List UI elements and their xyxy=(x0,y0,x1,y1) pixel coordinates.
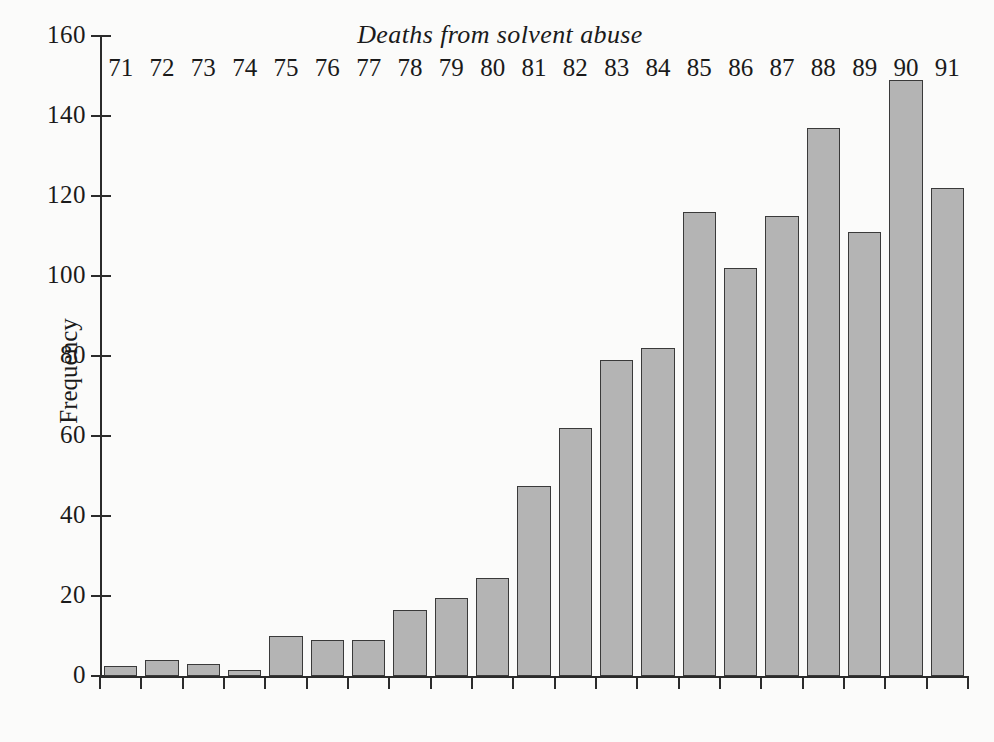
x-axis-tick-label: 77 xyxy=(356,54,381,82)
x-axis-tick xyxy=(306,676,308,689)
y-axis-tick-label: 80 xyxy=(60,341,86,369)
x-axis-line xyxy=(100,676,968,678)
x-axis-tick xyxy=(99,676,101,689)
y-axis-tick-label: 60 xyxy=(60,421,86,449)
bar xyxy=(393,610,426,676)
x-axis-tick-label: 87 xyxy=(770,54,795,82)
x-axis-tick-label: 86 xyxy=(728,54,753,82)
x-axis-tick xyxy=(388,676,390,689)
y-axis-tick-label: 40 xyxy=(60,501,86,529)
y-axis-tick-label: 120 xyxy=(47,181,86,209)
y-axis-tick-label: 160 xyxy=(47,21,86,49)
x-axis-tick-label: 82 xyxy=(563,54,588,82)
bar xyxy=(517,486,550,676)
x-axis-tick xyxy=(471,676,473,689)
x-axis-tick-label: 72 xyxy=(150,54,175,82)
bar xyxy=(476,578,509,676)
x-axis-tick xyxy=(884,676,886,689)
y-axis-tick-label: 0 xyxy=(73,661,86,689)
x-axis-tick-label: 91 xyxy=(935,54,960,82)
bar xyxy=(187,664,220,676)
y-axis-tick xyxy=(91,195,111,197)
y-axis-tick xyxy=(91,435,111,437)
y-axis-tick xyxy=(91,355,111,357)
y-axis-tick xyxy=(91,595,111,597)
x-axis-tick-label: 84 xyxy=(646,54,671,82)
x-axis-tick xyxy=(760,676,762,689)
x-axis-tick-label: 90 xyxy=(894,54,919,82)
x-axis-tick xyxy=(140,676,142,689)
x-axis-tick-label: 78 xyxy=(398,54,423,82)
x-axis-tick xyxy=(223,676,225,689)
bar xyxy=(228,670,261,676)
bar xyxy=(765,216,798,676)
bar xyxy=(807,128,840,676)
y-axis-tick xyxy=(91,35,111,37)
y-axis-tick-label: 140 xyxy=(47,101,86,129)
bar xyxy=(683,212,716,676)
bar xyxy=(352,640,385,676)
x-axis-tick-label: 81 xyxy=(522,54,547,82)
y-axis-title: Frequency xyxy=(55,318,83,424)
x-axis-tick xyxy=(967,676,969,689)
x-axis-tick-label: 74 xyxy=(232,54,257,82)
bar xyxy=(889,80,922,676)
x-axis-tick xyxy=(182,676,184,689)
x-axis-tick xyxy=(554,676,556,689)
x-axis-tick-label: 80 xyxy=(480,54,505,82)
bar xyxy=(641,348,674,676)
x-axis-tick xyxy=(512,676,514,689)
bar xyxy=(559,428,592,676)
plot-area: 0204060801001201401607172737475767778798… xyxy=(100,36,968,676)
bar xyxy=(931,188,964,676)
x-axis-tick-label: 76 xyxy=(315,54,340,82)
bar xyxy=(848,232,881,676)
x-axis-tick-label: 89 xyxy=(852,54,877,82)
y-axis-tick-label: 20 xyxy=(60,581,86,609)
x-axis-tick-label: 75 xyxy=(274,54,299,82)
x-axis-tick xyxy=(430,676,432,689)
bar xyxy=(311,640,344,676)
figure-container: Deaths from solvent abuse Frequency 0204… xyxy=(0,0,994,742)
x-axis-tick xyxy=(347,676,349,689)
x-axis-tick xyxy=(719,676,721,689)
x-axis-tick xyxy=(926,676,928,689)
y-axis-tick xyxy=(91,515,111,517)
bar xyxy=(435,598,468,676)
y-axis-tick xyxy=(91,115,111,117)
x-axis-tick-label: 88 xyxy=(811,54,836,82)
x-axis-tick xyxy=(595,676,597,689)
x-axis-tick xyxy=(802,676,804,689)
x-axis-tick xyxy=(264,676,266,689)
bar xyxy=(600,360,633,676)
y-axis-tick xyxy=(91,275,111,277)
bar xyxy=(104,666,137,676)
x-axis-tick-label: 79 xyxy=(439,54,464,82)
x-axis-tick-label: 71 xyxy=(108,54,133,82)
x-axis-tick-label: 73 xyxy=(191,54,216,82)
bar xyxy=(269,636,302,676)
x-axis-tick xyxy=(843,676,845,689)
bar xyxy=(724,268,757,676)
x-axis-tick xyxy=(636,676,638,689)
bar xyxy=(145,660,178,676)
x-axis-tick-label: 85 xyxy=(687,54,712,82)
x-axis-tick-label: 83 xyxy=(604,54,629,82)
x-axis-tick xyxy=(678,676,680,689)
y-axis-tick-label: 100 xyxy=(47,261,86,289)
